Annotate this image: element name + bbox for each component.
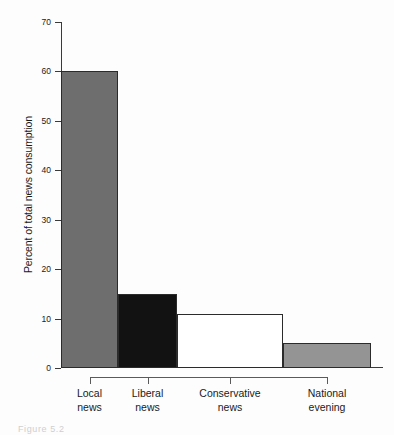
x-tick-label-line: Liberal [132,387,164,401]
x-tick-mark [90,377,91,384]
y-tick-label: 70 [26,17,51,27]
x-tick-label-line: news [77,401,102,415]
bar-liberal-news [118,294,177,368]
bar-conservative-news [177,314,283,368]
x-tick-label-line: evening [308,401,347,415]
y-tick-label: 60 [26,66,51,76]
x-tick-label: Conservativenews [199,387,260,414]
figure-caption: Figure 5.2 [18,424,65,434]
x-tick-label-line: Conservative [199,387,260,401]
y-tick-label: 30 [26,215,51,225]
y-tick-label: 50 [26,116,51,126]
x-tick-label-line: news [132,401,164,415]
x-tick-mark [327,377,328,384]
bar-national-evening [283,343,371,368]
y-tick-mark [55,368,61,369]
x-tick-label: Liberalnews [132,387,164,414]
figure-bar-chart: Percent of total news consumption 010203… [0,0,394,435]
x-tick-label: Localnews [77,387,102,414]
x-tick-mark [230,377,231,384]
bar-local-news [61,71,118,368]
x-axis-rule [90,377,328,378]
x-tick-label-line: Local [77,387,102,401]
x-tick-label: Nationalevening [308,387,347,414]
x-tick-mark [148,377,149,384]
plot-area [61,22,383,368]
y-tick-label: 0 [26,363,51,373]
x-tick-label-line: National [308,387,347,401]
y-tick-label: 10 [26,314,51,324]
x-tick-label-line: news [199,401,260,415]
y-tick-label: 20 [26,264,51,274]
y-tick-label: 40 [26,165,51,175]
